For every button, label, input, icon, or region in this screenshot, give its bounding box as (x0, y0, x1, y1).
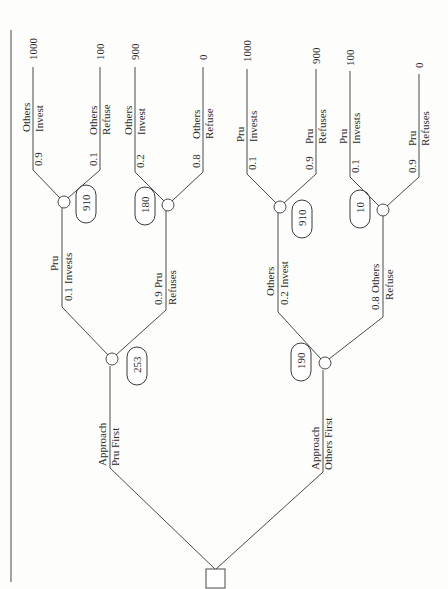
prob-pru-invests: 0.1 (62, 287, 74, 301)
t1-label-l1: Others (20, 103, 32, 132)
t1-prob: 0.9 (32, 152, 44, 166)
t7-label-l2: Invests (350, 113, 362, 144)
t4-label-l2: Refuse (203, 108, 215, 139)
decision-tree-diagram: Approach Pru First Approach Others First… (0, 0, 448, 589)
label-approach-pru-first-l1: Approach (96, 422, 108, 466)
t6-prob: 0.9 (303, 156, 315, 170)
ev-value-others-first: 190 (295, 352, 307, 369)
label-pru-invests-l1: Pru (48, 255, 60, 271)
t3-label-l2: Invest (135, 108, 147, 135)
t4-label-l1: Others (190, 110, 202, 139)
root-decision-node (206, 569, 225, 588)
t7-label-l1: Pru (337, 128, 349, 144)
label-others-invest-l2: Invest (278, 261, 290, 288)
prob-pru-refuses: 0.9 (152, 291, 164, 305)
t8-prob: 0.9 (406, 159, 418, 173)
branch-approach-others-first (216, 370, 323, 569)
ev-value-pru-refuses: 180 (139, 196, 151, 213)
label-pru-refuses-l1: Pru (152, 272, 164, 288)
t5-payoff: 1000 (241, 40, 253, 63)
t8-payoff: 0 (413, 62, 425, 68)
t5-label-l2: Invests (247, 111, 259, 142)
t8-label-l2: Refuses (419, 111, 431, 146)
t3-payoff: 900 (129, 43, 141, 60)
t6-payoff: 900 (310, 47, 322, 64)
t2-payoff: 100 (94, 43, 106, 60)
t2-label-l2: Refuse (100, 104, 112, 135)
label-approach-others-first-l2: Others First (322, 418, 334, 470)
t7-payoff: 100 (344, 49, 356, 66)
ev-value-others-invest: 910 (296, 209, 308, 226)
label-approach-others-first-l1: Approach (309, 426, 321, 470)
t4-payoff: 0 (197, 54, 209, 60)
t5-label-l1: Pru (234, 126, 246, 142)
prob-others-invest: 0.2 (278, 291, 290, 305)
t2-label-l1: Others (87, 106, 99, 135)
t7-prob: 0.1 (349, 159, 361, 173)
label-pru-refuses-l2: Refuses (166, 270, 178, 305)
t6-label-l1: Pru (303, 128, 315, 144)
t1-label-l2: Invest (33, 105, 45, 132)
label-others-refuse-l2: Refuse (383, 269, 395, 300)
label-others-invest-l1: Others (264, 267, 276, 296)
branch-approach-pru-first (110, 366, 215, 569)
label-pru-invests-l2: Invests (62, 253, 74, 284)
t3-label-l1: Others (122, 106, 134, 135)
label-approach-pru-first-l2: Pru First (109, 428, 121, 466)
prob-others-refuse: 0.8 (369, 296, 381, 310)
t8-label-l1: Pru (406, 130, 418, 146)
ev-value-pru-first: 253 (131, 356, 143, 373)
t3-prob: 0.2 (134, 154, 146, 168)
ev-value-pru-invests: 910 (80, 194, 92, 211)
t5-prob: 0.1 (246, 156, 258, 170)
t2-prob: 0.1 (87, 152, 99, 166)
t4-prob: 0.8 (190, 154, 202, 168)
t1-payoff: 1000 (27, 38, 39, 61)
t6-label-l2: Refuses (316, 109, 328, 144)
ev-value-others-refuse: 10 (354, 202, 366, 214)
label-others-refuse-l1: Others (369, 264, 381, 293)
